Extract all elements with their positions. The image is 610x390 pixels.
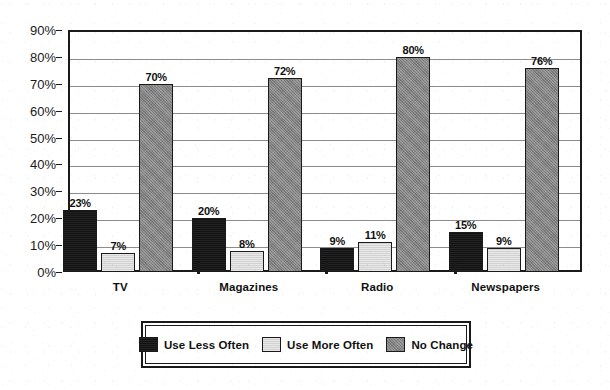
x-category-label: Newspapers	[471, 281, 540, 293]
legend-item: Use More Often	[262, 337, 373, 352]
y-tick-label: 90%	[30, 23, 56, 38]
x-axis: TVMagazinesRadioNewspapers	[68, 272, 582, 306]
y-tick-mark	[56, 164, 62, 165]
bar-group: 9%11%80%	[325, 30, 454, 272]
y-tick-label: 10%	[30, 238, 56, 253]
y-tick-mark	[56, 245, 62, 246]
y-tick-label: 70%	[30, 76, 56, 91]
x-axis-separator-tick	[197, 262, 200, 274]
y-tick-label: 30%	[30, 184, 56, 199]
bar: 70%	[139, 84, 173, 272]
y-tick-mark	[56, 111, 62, 112]
bar-value-label: 11%	[365, 229, 386, 241]
y-tick-mark	[56, 138, 62, 139]
bar-value-label: 70%	[146, 71, 167, 83]
y-tick-mark	[56, 30, 62, 31]
y-tick-label: 60%	[30, 103, 56, 118]
legend-item: No Change	[386, 337, 473, 352]
bar: 76%	[525, 68, 559, 272]
x-category-label: Magazines	[219, 281, 278, 293]
y-tick-label: 40%	[30, 157, 56, 172]
bar: 9%	[487, 248, 521, 272]
legend-swatch	[139, 337, 158, 352]
bar-group: 23%7%70%	[68, 30, 197, 272]
bar-value-label: 76%	[531, 55, 552, 67]
bar-value-label: 80%	[403, 44, 424, 56]
legend-label: Use Less Often	[164, 339, 249, 351]
x-axis-separator-tick	[454, 262, 457, 274]
y-tick-mark	[56, 84, 62, 85]
bar-group: 20%8%72%	[197, 30, 326, 272]
bar: 8%	[230, 251, 264, 273]
bar: 11%	[358, 242, 392, 272]
y-tick-mark	[56, 272, 62, 273]
bar-value-label: 20%	[198, 205, 219, 217]
y-tick-mark	[56, 218, 62, 219]
bar-value-label: 72%	[274, 65, 295, 77]
x-axis-separator-tick	[325, 262, 328, 274]
legend-swatch	[386, 337, 405, 352]
bar: 7%	[101, 253, 135, 272]
bar: 80%	[396, 57, 430, 272]
bar-value-label: 9%	[496, 235, 512, 247]
legend-label: Use More Often	[287, 339, 373, 351]
legend-label: No Change	[411, 339, 473, 351]
y-tick-mark	[56, 57, 62, 58]
bar-chart: 0%10%20%30%40%50%60%70%80%90% 23%7%70%20…	[0, 0, 610, 390]
legend-item: Use Less Often	[139, 337, 249, 352]
bar-value-label: 9%	[330, 235, 346, 247]
x-category-label: Radio	[361, 281, 393, 293]
bar-value-label: 15%	[455, 219, 476, 231]
y-tick-mark	[56, 191, 62, 192]
legend-swatch	[262, 337, 281, 352]
y-tick-label: 0%	[37, 265, 56, 280]
y-tick-label: 50%	[30, 130, 56, 145]
bar: 72%	[268, 78, 302, 272]
bar-value-label: 8%	[239, 238, 255, 250]
y-axis: 0%10%20%30%40%50%60%70%80%90%	[0, 30, 62, 272]
legend: Use Less OftenUse More OftenNo Change	[141, 321, 471, 368]
y-tick-label: 80%	[30, 49, 56, 64]
bar-group: 15%9%76%	[454, 30, 583, 272]
legend-inner: Use Less OftenUse More OftenNo Change	[145, 325, 467, 364]
bar: 23%	[63, 210, 97, 272]
y-tick-label: 20%	[30, 211, 56, 226]
bars-layer: 23%7%70%20%8%72%9%11%80%15%9%76%	[68, 30, 582, 272]
bar-value-label: 7%	[111, 240, 127, 252]
x-category-label: TV	[113, 281, 128, 293]
bar-value-label: 23%	[70, 197, 91, 209]
